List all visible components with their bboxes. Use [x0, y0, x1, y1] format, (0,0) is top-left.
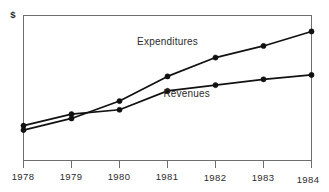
- series-label-expenditures: Expenditures: [137, 36, 198, 47]
- data-point-expenditures-1981: [165, 74, 170, 79]
- x-tick-label-1983: 1983: [252, 172, 275, 183]
- chart-canvas: $ 1978 1979 1980 1981 1982 1983 1984 Exp…: [0, 0, 329, 192]
- data-point-revenues-1982: [213, 83, 218, 88]
- x-tick-label-1979: 1979: [60, 171, 83, 182]
- data-point-revenues-1984: [309, 72, 314, 77]
- data-point-revenues-1979: [69, 112, 74, 117]
- x-axis-tick-labels: 1978 1979 1980 1981 1982 1983 1984: [12, 171, 320, 185]
- x-tick-label-1978: 1978: [12, 171, 35, 182]
- data-point-revenues-1980: [117, 107, 122, 112]
- x-tick-label-1980: 1980: [108, 171, 131, 182]
- data-point-expenditures-1980: [117, 98, 122, 103]
- data-point-expenditures-1983: [261, 43, 266, 48]
- data-point-revenues-1983: [261, 77, 266, 82]
- series-annotations: ExpendituresRevenues: [137, 36, 210, 99]
- x-axis-ticks: [24, 161, 312, 168]
- series-line-revenues: [24, 75, 312, 126]
- x-tick-label-1981: 1981: [156, 171, 179, 182]
- line-chart: $ 1978 1979 1980 1981 1982 1983 1984 Exp…: [0, 0, 329, 192]
- data-point-expenditures-1984: [309, 29, 314, 34]
- series-label-revenues: Revenues: [163, 88, 210, 99]
- x-tick-label-1982: 1982: [204, 172, 227, 183]
- x-tick-label-1984: 1984: [297, 174, 320, 185]
- y-axis-title: $: [10, 9, 16, 20]
- data-point-revenues-1978: [21, 123, 26, 128]
- data-point-expenditures-1982: [213, 55, 218, 60]
